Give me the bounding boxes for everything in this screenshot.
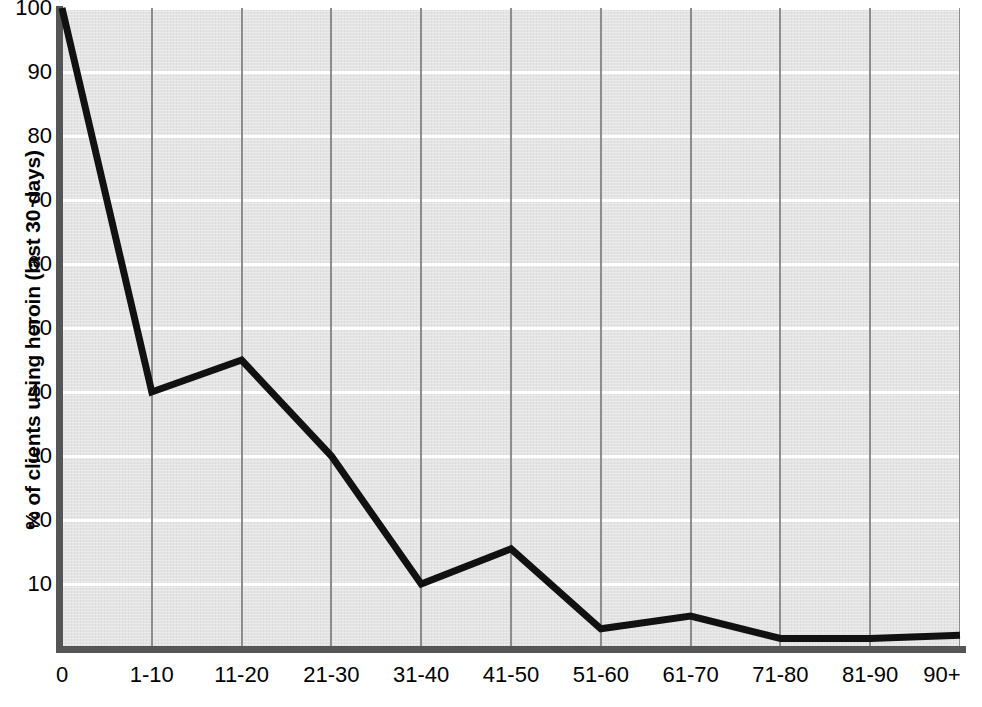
x-axis-tick-label: 41-50 xyxy=(483,660,539,690)
x-axis-tick-label: 0 xyxy=(56,660,68,690)
y-axis-tick-label: 60 xyxy=(28,252,52,276)
gridline-vertical xyxy=(959,8,960,648)
y-axis-tick-label: 90 xyxy=(28,60,52,84)
x-axis-tick-label: 31-40 xyxy=(393,660,449,690)
x-axis-tick-label: 21-30 xyxy=(303,660,359,690)
y-axis-tick-label: 70 xyxy=(28,188,52,212)
y-axis-tick-label: 20 xyxy=(28,508,52,532)
y-axis-tick-label: 10 xyxy=(28,572,52,596)
x-axis-tick-label: 81-90 xyxy=(842,660,898,690)
x-axis-tick-label: 1-10 xyxy=(130,660,174,690)
x-axis-tick-label: 61-70 xyxy=(662,660,718,690)
gridline-vertical xyxy=(690,8,692,648)
y-axis-line xyxy=(56,6,63,652)
gridline-vertical xyxy=(869,8,871,648)
gridline-vertical xyxy=(420,8,422,648)
y-axis-tick-label: 100 xyxy=(15,0,52,20)
gridline-vertical xyxy=(330,8,332,648)
x-axis-tick-label: 90+ xyxy=(923,660,960,690)
x-axis-line xyxy=(56,646,966,653)
x-axis-tick-labels: 01-1011-2021-3031-4041-5051-6061-7071-80… xyxy=(0,660,982,700)
y-axis-tick-label: 50 xyxy=(28,316,52,340)
gridline-vertical xyxy=(151,8,153,648)
y-axis-tick-labels: 102030405060708090100 xyxy=(0,0,58,707)
gridline-vertical xyxy=(241,8,243,648)
x-axis-tick-label: 11-20 xyxy=(214,660,269,690)
gridline-vertical xyxy=(510,8,512,648)
y-axis-tick-label: 30 xyxy=(28,444,52,468)
plot-area xyxy=(62,8,960,648)
x-axis-tick-label: 51-60 xyxy=(573,660,629,690)
line-chart: % of clients using heroin (last 30 days)… xyxy=(0,0,982,707)
x-axis-tick-label: 71-80 xyxy=(752,660,808,690)
y-axis-tick-label: 80 xyxy=(28,124,52,148)
y-axis-tick-label: 40 xyxy=(28,380,52,404)
gridline-vertical xyxy=(779,8,781,648)
gridline-vertical xyxy=(600,8,602,648)
